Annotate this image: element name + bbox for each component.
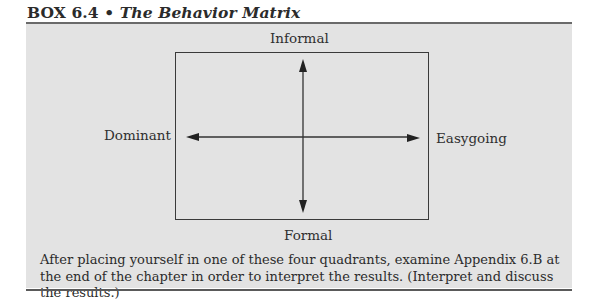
vertical-axis-arrow-icon xyxy=(299,59,307,213)
caption-text: After placing yourself in one of these f… xyxy=(40,252,560,302)
bottom-rule xyxy=(26,289,572,291)
